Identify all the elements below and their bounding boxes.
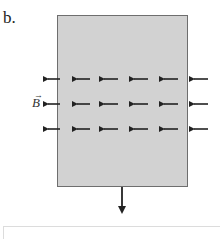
answer-box[interactable] <box>3 226 220 239</box>
velocity-arrow-down <box>118 187 126 214</box>
field-arrows <box>0 0 220 239</box>
